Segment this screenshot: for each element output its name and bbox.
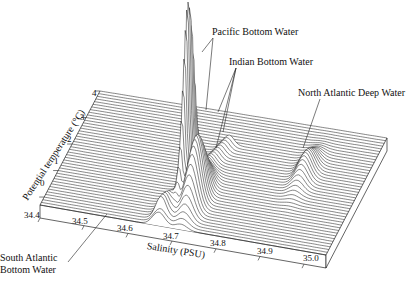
annotation-leader <box>223 68 236 132</box>
trace-line <box>97 96 384 143</box>
x-tick-34.7: 34.7 <box>163 231 179 241</box>
y-tick-4: 4 <box>92 88 97 98</box>
trace-line <box>99 94 386 141</box>
annotation-pacific: Pacific Bottom Water <box>212 26 298 37</box>
x-tick-mark <box>258 256 260 260</box>
trace-line <box>96 99 383 146</box>
annotation-nadw: North Atlantic Deep Water <box>298 87 405 98</box>
x-tick-34.9: 34.9 <box>257 246 273 256</box>
x-tick-34.5: 34.5 <box>72 216 88 226</box>
x-tick-mark <box>214 249 216 253</box>
y-tick-0: 0 <box>40 178 45 188</box>
annotation-leader <box>202 38 213 52</box>
annotation-leader <box>218 68 236 112</box>
y-tick-1: 1 <box>54 156 59 166</box>
x-tick-mark <box>82 226 84 230</box>
x-tick-34.6: 34.6 <box>117 223 133 233</box>
annotation-leader <box>206 38 213 110</box>
annotation-saabw-1: South Atlantic <box>0 252 58 263</box>
y-tick-3: 3 <box>80 112 85 122</box>
y-tick-2: 2 <box>67 134 72 144</box>
annotation-saabw-2: Bottom Water <box>0 264 56 275</box>
x-tick-mark <box>302 264 304 268</box>
x-tick-mark <box>126 233 128 237</box>
x-tick-34.4: 34.4 <box>24 210 40 220</box>
trace-line <box>100 91 387 138</box>
trace-line <box>94 102 381 149</box>
x-tick-35.0: 35.0 <box>303 253 319 263</box>
annotation-indian: Indian Bottom Water <box>229 56 313 67</box>
x-tick-34.8: 34.8 <box>210 238 226 248</box>
